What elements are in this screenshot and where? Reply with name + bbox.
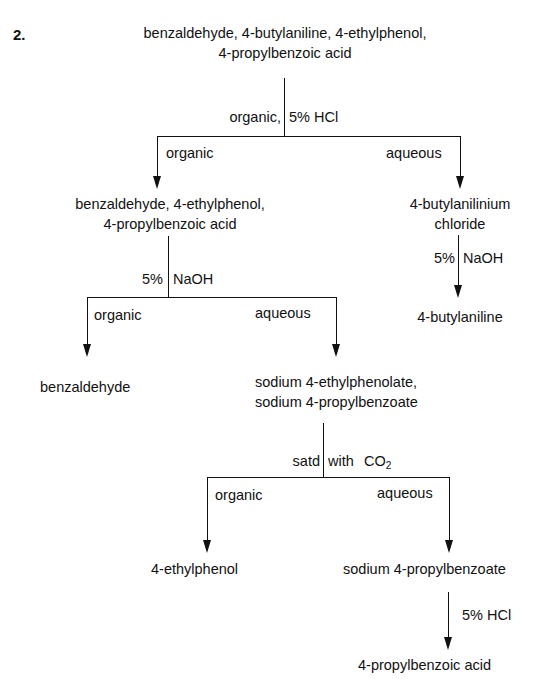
step4-arrow-line bbox=[448, 592, 449, 639]
product-aldehyde: benzaldehyde bbox=[40, 378, 130, 397]
product-phenol: 4-ethylphenol bbox=[151, 560, 238, 579]
arrow-down-icon bbox=[83, 344, 91, 357]
step2-aqueous-arrow-line bbox=[336, 297, 337, 346]
step-aq1-arrow-line bbox=[458, 235, 459, 287]
step3-split-line bbox=[207, 477, 450, 478]
step3-reagent-label: CO2 bbox=[364, 452, 391, 471]
aqueous3: sodium 4-propylbenzoate bbox=[343, 560, 506, 579]
step4-reagent-label: 5% HCl bbox=[462, 606, 511, 625]
step3-aqueous-arrow-line bbox=[449, 477, 450, 542]
step2-organic-label: organic bbox=[94, 306, 142, 325]
problem-number: 2. bbox=[13, 25, 26, 44]
step3-aqueous-label: aqueous bbox=[377, 484, 433, 503]
step2-split-line bbox=[87, 297, 337, 298]
organic1-line1: benzaldehyde, 4-ethylphenol, bbox=[40, 195, 300, 214]
step3-with-label: with bbox=[328, 452, 354, 471]
step1-stem-line bbox=[284, 78, 285, 137]
start-mixture-line2: 4-propylbenzoic acid bbox=[100, 44, 470, 63]
arrow-down-icon bbox=[332, 344, 340, 357]
step-aq1-left-label: 5% bbox=[434, 249, 455, 268]
step3-organic-label: organic bbox=[215, 486, 263, 505]
product-acid: 4-propylbenzoic acid bbox=[358, 656, 491, 675]
step1-aqueous-label: aqueous bbox=[386, 144, 442, 163]
arrow-down-icon bbox=[444, 637, 452, 650]
step1-organic-label: organic bbox=[166, 144, 214, 163]
step1-aqueous-arrow-line bbox=[460, 136, 461, 178]
organic1-line2: 4-propylbenzoic acid bbox=[40, 215, 300, 234]
aqueous1-line1: 4-butylanilinium bbox=[390, 195, 530, 214]
step1-split-line bbox=[157, 136, 461, 137]
step3-left-label: satd bbox=[293, 452, 320, 471]
step3-stem-line bbox=[323, 423, 324, 478]
step1-reagent-label: 5% HCl bbox=[289, 108, 338, 127]
start-mixture-line1: benzaldehyde, 4-butylaniline, 4-ethylphe… bbox=[100, 24, 470, 43]
step2-aqueous-label: aqueous bbox=[255, 304, 311, 323]
step3-organic-arrow-line bbox=[207, 477, 208, 542]
step1-organic-arrow-line bbox=[157, 136, 158, 178]
arrow-down-icon bbox=[153, 176, 161, 189]
aqueous2-line1: sodium 4-ethylphenolate, bbox=[255, 373, 417, 392]
step2-left-label: 5% bbox=[142, 270, 163, 289]
arrow-down-icon bbox=[203, 540, 211, 553]
arrow-down-icon bbox=[454, 285, 462, 298]
step2-reagent-label: NaOH bbox=[173, 270, 213, 289]
step-aq1-reagent-label: NaOH bbox=[463, 249, 503, 268]
arrow-down-icon bbox=[456, 176, 464, 189]
aqueous1-line2: chloride bbox=[390, 215, 530, 234]
arrow-down-icon bbox=[445, 540, 453, 553]
product-amine: 4-butylaniline bbox=[390, 308, 530, 327]
step2-stem-line bbox=[168, 236, 169, 298]
step1-left-label: organic, bbox=[229, 108, 281, 127]
step2-organic-arrow-line bbox=[87, 297, 88, 346]
aqueous2-line2: sodium 4-propylbenzoate bbox=[255, 393, 418, 412]
